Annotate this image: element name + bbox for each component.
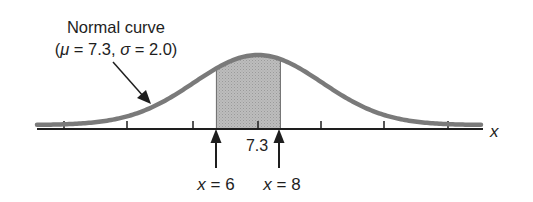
- curve-title: Normal curve: [67, 18, 165, 36]
- mean-label: 7.3: [246, 137, 268, 154]
- arrow-up-icon: [211, 129, 222, 143]
- x-axis-label: x: [489, 122, 499, 141]
- shaded-area-6-to-8: [216, 55, 280, 129]
- normal-curve-figure: x 7.3 x = 6 x = 8 Normal curve (μ = 7.3,…: [0, 0, 533, 202]
- marker-label-x-6: x = 6: [196, 175, 234, 194]
- marker-label-x-8: x = 8: [262, 175, 300, 194]
- pointer-arrow: [113, 62, 151, 104]
- arrow-x-6: [211, 129, 222, 168]
- arrow-x-8: [274, 129, 285, 168]
- curve-parameters: (μ = 7.3, σ = 2.0): [55, 40, 178, 58]
- arrow-up-icon: [274, 129, 285, 143]
